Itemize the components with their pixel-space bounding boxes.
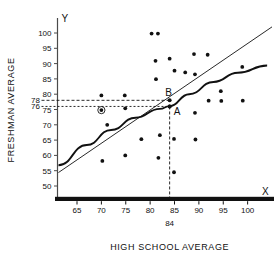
x-tick-label-95: 95 bbox=[219, 206, 228, 215]
data-point-3 bbox=[100, 159, 104, 163]
data-point-5 bbox=[123, 106, 127, 110]
y-tick-label-60: 60 bbox=[43, 151, 52, 160]
data-point-13 bbox=[158, 133, 162, 137]
y-axis-title: FRESHMAN AVERAGE bbox=[6, 58, 16, 163]
annotation-label-A: A bbox=[174, 106, 181, 117]
y-axis-letter: Y bbox=[62, 13, 69, 24]
x-tick-label-75: 75 bbox=[121, 206, 130, 215]
x-tick-label-80: 80 bbox=[146, 206, 155, 215]
y-tick-label-55: 55 bbox=[43, 167, 52, 176]
x-tick-label-70: 70 bbox=[97, 206, 106, 215]
annotation-marker-B bbox=[168, 98, 172, 102]
x-tick-label-100: 100 bbox=[241, 206, 255, 215]
x-tick-label-85: 85 bbox=[170, 206, 179, 215]
straight-regression-line bbox=[58, 27, 272, 173]
data-point-8 bbox=[150, 32, 154, 36]
data-point-29 bbox=[241, 99, 245, 103]
x-axis-line bbox=[55, 197, 274, 201]
chart-canvas: YX50556065707580859095100787665707580859… bbox=[0, 0, 277, 256]
x-callout-84: 84 bbox=[165, 219, 174, 228]
data-point-10 bbox=[154, 59, 158, 63]
x-tick-label-65: 65 bbox=[73, 206, 82, 215]
data-point-18 bbox=[172, 170, 176, 174]
data-point-17 bbox=[172, 137, 176, 141]
data-point-1 bbox=[99, 108, 103, 112]
data-point-12 bbox=[157, 156, 161, 160]
data-point-16 bbox=[173, 69, 177, 73]
data-point-14 bbox=[168, 57, 172, 61]
data-point-24 bbox=[206, 53, 210, 57]
data-point-6 bbox=[123, 154, 127, 158]
annotation-label-B: B bbox=[165, 87, 172, 98]
data-point-23 bbox=[194, 138, 198, 142]
annotation-marker-A bbox=[168, 104, 172, 108]
y-tick-label-95: 95 bbox=[43, 44, 52, 53]
x-axis-letter: X bbox=[262, 186, 269, 197]
data-point-11 bbox=[154, 77, 158, 81]
y-tick-label-65: 65 bbox=[43, 136, 52, 145]
x-tick-label-90: 90 bbox=[194, 206, 203, 215]
data-point-19 bbox=[183, 71, 187, 75]
y-tick-label-80: 80 bbox=[43, 90, 52, 99]
data-point-28 bbox=[240, 65, 244, 69]
data-point-25 bbox=[207, 99, 211, 103]
y-tick-label-76: 76 bbox=[31, 102, 40, 111]
data-point-22 bbox=[193, 111, 197, 115]
data-point-9 bbox=[156, 32, 160, 36]
x-axis-title: HIGH SCHOOL AVERAGE bbox=[110, 242, 229, 252]
y-tick-label-70: 70 bbox=[43, 121, 52, 130]
y-tick-label-85: 85 bbox=[43, 75, 52, 84]
curved-regression-line bbox=[58, 65, 267, 165]
data-point-20 bbox=[192, 52, 196, 56]
data-point-0 bbox=[99, 94, 103, 98]
data-point-2 bbox=[105, 123, 109, 127]
data-point-21 bbox=[193, 72, 197, 76]
data-point-4 bbox=[123, 94, 127, 98]
scatter-chart: YX50556065707580859095100787665707580859… bbox=[0, 0, 277, 256]
data-point-26 bbox=[219, 89, 223, 93]
y-tick-label-90: 90 bbox=[43, 60, 52, 69]
y-tick-label-100: 100 bbox=[38, 29, 52, 38]
y-tick-label-50: 50 bbox=[43, 182, 52, 191]
data-point-27 bbox=[219, 99, 223, 103]
data-point-7 bbox=[139, 137, 143, 141]
